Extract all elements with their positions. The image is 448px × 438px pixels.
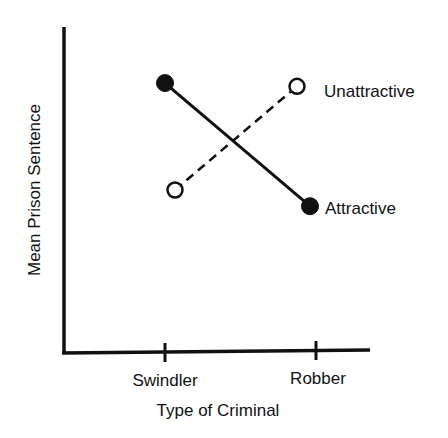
- interaction-line-chart: Unattractive Attractive Swindler Robber …: [0, 0, 448, 438]
- series-line-attractive: [165, 83, 310, 206]
- marker-unattractive-swindler: [168, 183, 183, 198]
- x-tick-label-swindler: Swindler: [132, 371, 198, 390]
- series-line-unattractive: [175, 86, 297, 190]
- series-label-unattractive: Unattractive: [324, 82, 415, 101]
- marker-attractive-robber: [302, 198, 319, 215]
- series-label-attractive: Attractive: [325, 199, 396, 218]
- x-axis: [62, 350, 370, 353]
- y-axis-title: Mean Prison Sentence: [25, 104, 44, 276]
- marker-attractive-swindler: [157, 75, 174, 92]
- x-tick-label-robber: Robber: [290, 369, 346, 388]
- x-axis-title: Type of Criminal: [157, 401, 280, 420]
- marker-unattractive-robber: [290, 79, 305, 94]
